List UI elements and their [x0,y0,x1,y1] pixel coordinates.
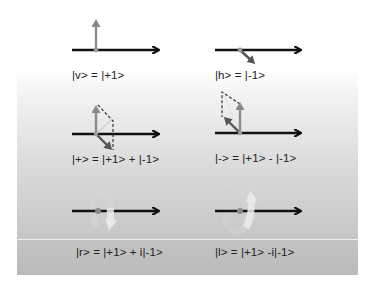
l-state-diagram [215,191,300,231]
clockwise-rotation-arrow-icon [110,208,111,225]
plus-state-label: |+> = |+1> + |-1> [72,153,159,165]
minus-state-diagram [215,92,300,135]
r-state-diagram [72,192,158,228]
l-state-label: |l> = |+1> -i|-1> [215,246,294,258]
h-state-diagram [215,48,300,62]
polarization-diagrams [0,0,374,284]
r-state-label: |r> = |+1> + i|-1> [76,246,163,258]
diagonal-component-icon [226,119,240,133]
resultant-vector-icon [96,120,111,134]
v-state-label: |v> = |+1> [72,69,124,81]
diagonal-component-icon [96,134,110,148]
minus-state-label: |-> = |+1> - |-1> [215,152,296,164]
resultant-vector-icon [223,93,240,133]
diagonal-vector-icon [240,50,253,62]
h-state-label: |h> = |-1> [215,69,265,81]
plus-state-diagram [72,105,158,150]
v-state-diagram [72,22,158,52]
